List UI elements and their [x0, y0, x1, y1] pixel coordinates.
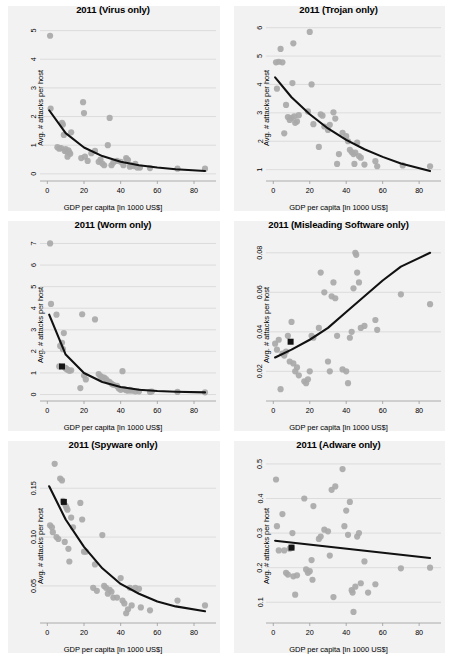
x-tick-label: 20 [80, 186, 88, 195]
data-point [350, 285, 356, 291]
data-point [345, 532, 351, 538]
panel-trojan-svg: 123456020406080 [226, 0, 451, 215]
y-tick-label: 0.08 [256, 246, 265, 260]
data-point [105, 142, 111, 148]
data-point [281, 547, 287, 553]
x-tick-label: 80 [190, 628, 198, 637]
y-tick-label: 5 [256, 54, 265, 58]
fit-curve [275, 253, 430, 358]
y-tick-label: 0.04 [256, 325, 265, 339]
data-point [118, 575, 124, 581]
data-point [108, 589, 114, 595]
data-point [59, 477, 65, 483]
x-tick-label: 40 [117, 406, 125, 415]
panel-misleading-software: 2011 (Misleading Software only) Avg. # a… [226, 215, 451, 435]
y-tick-label: 0.10 [30, 530, 39, 544]
x-tick-label: 60 [379, 406, 387, 415]
panel-worm: 2011 (Worm only) Avg. # attacks per host… [0, 215, 226, 435]
x-tick-label: 60 [379, 628, 387, 637]
x-tick-label: 0 [271, 186, 275, 195]
y-tick-label: 1 [30, 371, 39, 375]
data-point [294, 118, 300, 124]
data-point [305, 376, 311, 382]
data-point [308, 557, 314, 563]
data-point [121, 600, 127, 606]
data-point [48, 301, 54, 307]
data-point [332, 115, 338, 121]
y-tick-label: 0.2 [256, 563, 265, 573]
data-point [290, 40, 296, 46]
y-tick-label: 1 [30, 143, 39, 147]
x-tick-label: 40 [342, 628, 350, 637]
figure-grid: 2011 (Virus only) Avg. # attacks per hos… [0, 0, 451, 657]
data-point [294, 364, 300, 370]
y-tick-label: 5 [30, 285, 39, 289]
data-point [349, 329, 355, 335]
highlight-marker [289, 545, 295, 551]
data-point [365, 589, 371, 595]
data-point [47, 240, 53, 246]
data-point [398, 291, 404, 297]
data-point [147, 607, 153, 613]
data-point [351, 161, 357, 167]
data-point [65, 546, 71, 552]
x-tick-label: 80 [190, 186, 198, 195]
y-tick-label: 4 [256, 82, 265, 86]
data-point [361, 558, 367, 564]
x-tick-label: 20 [306, 628, 314, 637]
x-tick-label: 60 [379, 186, 387, 195]
data-point [274, 523, 280, 529]
x-tick-label: 0 [271, 406, 275, 415]
data-point [374, 163, 380, 169]
y-tick-label: 0 [30, 172, 39, 176]
highlight-marker [61, 499, 67, 505]
data-point [292, 592, 298, 598]
data-point [354, 269, 360, 275]
data-point [356, 530, 362, 536]
x-tick-label: 80 [190, 406, 198, 415]
fit-curve [275, 541, 430, 558]
data-point [330, 594, 336, 600]
data-point [301, 495, 307, 501]
data-point [341, 523, 347, 529]
data-point [318, 533, 324, 539]
panel-misleading-software-svg: 0.020.040.060.08020406080 [226, 215, 451, 435]
fit-curve [49, 315, 205, 393]
data-point [281, 130, 287, 136]
data-point [309, 577, 315, 583]
data-point [321, 289, 327, 295]
x-tick-label: 80 [415, 628, 423, 637]
data-point [64, 507, 70, 513]
y-tick-label: 4 [30, 306, 39, 310]
y-tick-label: 2 [30, 349, 39, 353]
data-point [274, 86, 280, 92]
data-point [273, 476, 279, 482]
data-point [136, 586, 142, 592]
data-point [77, 500, 83, 506]
data-point [283, 102, 289, 108]
data-point [372, 581, 378, 587]
data-point [361, 161, 367, 167]
data-point [307, 29, 313, 35]
data-point [325, 528, 331, 534]
data-point [319, 113, 325, 119]
data-point [174, 597, 180, 603]
x-tick-label: 40 [117, 628, 125, 637]
data-point [66, 558, 72, 564]
data-point [334, 161, 340, 167]
data-point [353, 252, 359, 258]
data-point [289, 530, 295, 536]
data-point [61, 330, 67, 336]
data-point [138, 604, 144, 610]
data-point [325, 358, 331, 364]
fit-curve [275, 77, 430, 171]
x-tick-label: 20 [306, 186, 314, 195]
data-point [94, 588, 100, 594]
y-tick-label: 3 [256, 111, 265, 115]
y-tick-label: 3 [30, 86, 39, 90]
data-point [398, 565, 404, 571]
data-point [347, 335, 353, 341]
data-point [345, 380, 351, 386]
data-point [327, 368, 333, 374]
data-point [310, 503, 316, 509]
